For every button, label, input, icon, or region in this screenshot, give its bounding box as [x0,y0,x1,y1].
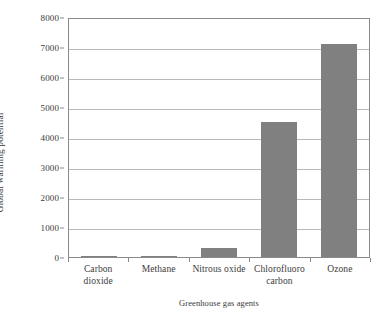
bar[interactable] [201,248,237,257]
y-tick-mark [60,138,64,139]
y-tick-mark [60,18,64,19]
x-tick-label-line: Nitrous oxide [189,263,249,275]
bar[interactable] [261,122,297,257]
y-tick-label: 5000 [41,103,59,113]
x-tick-mark [68,258,69,262]
bar[interactable] [81,256,117,257]
x-tick-label-line: dioxide [68,275,128,287]
x-tick-label: Chlorofluorocarbon [249,263,309,295]
x-tick-mark [128,258,129,262]
x-tick-label-line: Ozone [310,263,370,275]
x-tick-label: Carbondioxide [68,263,128,295]
y-tick-label: 2000 [41,193,59,203]
y-tick-mark [60,228,64,229]
x-tick-mark [370,258,371,262]
x-tick-label-line: Carbon [68,263,128,275]
plot-area [68,18,370,258]
bar-slot [309,19,369,257]
bar-slot [69,19,129,257]
x-axis-tick-labels: CarbondioxideMethaneNitrous oxideChlorof… [68,263,370,295]
y-axis-tick-labels: 010002000300040005000600070008000 [26,18,64,258]
x-tick-mark [310,258,311,262]
y-tick-mark [60,168,64,169]
x-axis-title: Greenhouse gas agents [68,298,370,308]
y-tick-label: 7000 [41,43,59,53]
bar-chart-figure: Global warming potential 010002000300040… [0,0,384,325]
y-tick-mark [60,108,64,109]
bar-slot [129,19,189,257]
y-tick-label: 0 [54,253,59,263]
y-tick-label: 4000 [41,133,59,143]
x-tick-mark [189,258,190,262]
bars-layer [69,19,369,257]
x-tick-label-line: Methane [128,263,188,275]
y-tick-mark [60,258,64,259]
bar[interactable] [321,44,357,257]
y-tick-label: 3000 [41,163,59,173]
y-tick-label: 8000 [41,13,59,23]
y-tick-mark [60,198,64,199]
y-tick-label: 1000 [41,223,59,233]
x-tick-label: Nitrous oxide [189,263,249,295]
x-tick-label: Methane [128,263,188,295]
x-tick-mark [249,258,250,262]
bar-slot [249,19,309,257]
bar-slot [189,19,249,257]
x-tick-label-line: carbon [249,275,309,287]
y-tick-label: 6000 [41,73,59,83]
y-tick-mark [60,48,64,49]
y-tick-mark [60,78,64,79]
x-tick-label: Ozone [310,263,370,295]
bar[interactable] [141,256,177,257]
x-tick-label-line: Chlorofluoro [249,263,309,275]
